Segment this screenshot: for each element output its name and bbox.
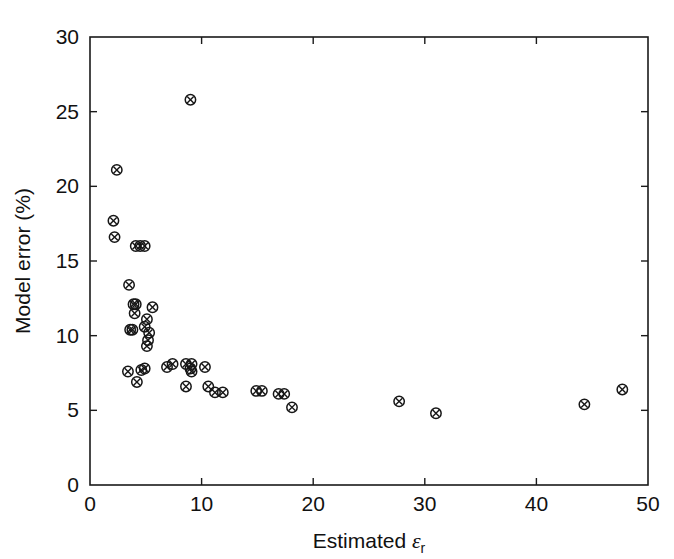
x-axis-title-text: Estimated εr	[313, 528, 426, 556]
scatter-plot-figure: 01020304050 051015202530 Estimated εr Mo…	[0, 0, 674, 559]
data-point	[109, 232, 119, 242]
y-axis-title: Model error (%)	[11, 188, 34, 334]
x-tick-label-50: 50	[636, 492, 659, 515]
data-point	[139, 363, 149, 373]
y-tick-label-5: 5	[67, 398, 79, 421]
data-point	[132, 377, 142, 387]
plot-canvas: 01020304050 051015202530 Estimated εr Mo…	[0, 0, 674, 559]
x-axis-tick-labels: 01020304050	[84, 492, 660, 515]
y-tick-label-20: 20	[56, 174, 79, 197]
x-tick-label-40: 40	[525, 492, 548, 515]
data-point	[431, 408, 441, 418]
x-tick-label-20: 20	[302, 492, 325, 515]
plot-frame	[90, 37, 648, 485]
x-axis-ticks	[202, 37, 537, 485]
x-tick-label-30: 30	[413, 492, 436, 515]
data-point	[279, 389, 289, 399]
data-point	[142, 314, 152, 324]
data-point	[123, 366, 133, 376]
data-point	[142, 341, 152, 351]
y-tick-label-25: 25	[56, 100, 79, 123]
y-axis-tick-labels: 051015202530	[56, 25, 79, 496]
data-point	[112, 165, 122, 175]
data-point	[185, 95, 195, 105]
x-axis-title: Estimated εr	[313, 528, 426, 556]
data-point	[108, 215, 118, 225]
data-point	[181, 381, 191, 391]
y-axis-title-text: Model error (%)	[11, 188, 34, 334]
data-point	[257, 386, 267, 396]
data-point	[579, 399, 589, 409]
data-point	[124, 280, 134, 290]
axes-box	[90, 37, 648, 485]
data-point	[617, 384, 627, 394]
data-point-markers	[108, 95, 627, 419]
y-tick-label-15: 15	[56, 249, 79, 272]
data-point	[200, 362, 210, 372]
data-point	[287, 402, 297, 412]
y-tick-label-30: 30	[56, 25, 79, 48]
y-tick-label-10: 10	[56, 324, 79, 347]
x-tick-label-10: 10	[190, 492, 213, 515]
x-tick-label-0: 0	[84, 492, 96, 515]
y-tick-label-0: 0	[67, 473, 79, 496]
data-point	[394, 396, 404, 406]
data-point	[147, 302, 157, 312]
data-point	[218, 387, 228, 397]
